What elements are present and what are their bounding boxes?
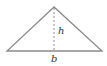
base-label: b [51,54,57,64]
height-label: h [58,26,64,36]
